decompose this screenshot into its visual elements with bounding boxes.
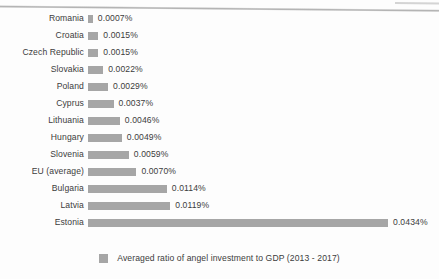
bar-category-label: Croatia [0,31,84,40]
bar-row: Estonia0.0434% [0,214,439,231]
scan-line-artifact-secondary [395,2,439,4]
bar-row: Poland0.0029% [0,78,439,95]
bar-category-label: Cyprus [0,99,84,108]
bar-category-label: Slovenia [0,150,84,159]
bar-category-label: Czech Republic [0,48,84,57]
bar-track: 0.0070% [88,167,439,176]
chart-legend: Averaged ratio of angel investment to GD… [0,254,439,263]
bar-row: Cyprus0.0037% [0,95,439,112]
bar-row: Slovenia0.0059% [0,146,439,163]
bar-track: 0.0015% [88,31,439,40]
bar-category-label: Hungary [0,133,84,142]
bar-category-label: Lithuania [0,116,84,125]
bar-track: 0.0037% [88,99,439,108]
bar-row: Romania0.0007% [0,10,439,27]
bar-row: EU (average)0.0070% [0,163,439,180]
legend-series-label: Averaged ratio of angel investment to GD… [117,254,340,263]
bar-row: Latvia0.0119% [0,197,439,214]
bar-value-label: 0.0015% [103,48,138,57]
bar-value-label: 0.0119% [175,201,209,210]
bar-rect [88,117,120,125]
bar-rect [88,32,98,40]
bar-value-label: 0.0434% [393,218,428,227]
bar-rect [88,66,103,74]
bar-value-label: 0.0029% [113,82,148,91]
bar-track: 0.0046% [88,116,439,125]
bar-rect [88,185,167,193]
bar-track: 0.0049% [88,133,439,142]
bar-value-label: 0.0046% [125,116,160,125]
chart-plot-area: Romania0.0007%Croatia0.0015%Czech Republ… [0,10,439,231]
bar-category-label: EU (average) [0,167,84,176]
bar-rect [88,151,129,159]
bar-track: 0.0007% [88,14,439,23]
bar-rect [88,219,388,227]
bar-value-label: 0.0007% [98,14,133,23]
bar-value-label: 0.0022% [108,65,143,74]
bar-value-label: 0.0049% [127,133,162,142]
bar-chart-figure: Romania0.0007%Croatia0.0015%Czech Republ… [0,0,439,279]
bar-value-label: 0.0059% [134,150,169,159]
bar-track: 0.0434% [88,218,439,227]
bar-rect [88,168,136,176]
bar-rect [88,100,114,108]
bar-category-label: Latvia [0,201,84,210]
bar-row: Bulgaria0.0114% [0,180,439,197]
bar-rect [88,15,93,23]
bar-track: 0.0114% [88,184,439,193]
bar-category-label: Estonia [0,218,84,227]
bar-value-label: 0.0114% [172,184,206,193]
bar-rect [88,202,170,210]
bar-row: Czech Republic0.0015% [0,44,439,61]
bar-track: 0.0059% [88,150,439,159]
legend-color-swatch [99,254,108,263]
bar-track: 0.0015% [88,48,439,57]
bar-row: Croatia0.0015% [0,27,439,44]
bar-row: Lithuania0.0046% [0,112,439,129]
bar-category-label: Bulgaria [0,184,84,193]
bar-value-label: 0.0015% [103,31,138,40]
bar-rect [88,134,122,142]
bar-row: Hungary0.0049% [0,129,439,146]
bar-value-label: 0.0070% [141,167,176,176]
bar-category-label: Slovakia [0,65,84,74]
bar-value-label: 0.0037% [119,99,154,108]
bar-track: 0.0119% [88,201,439,210]
bar-row: Slovakia0.0022% [0,61,439,78]
bar-track: 0.0022% [88,65,439,74]
bar-rect [88,49,98,57]
bar-track: 0.0029% [88,82,439,91]
bar-category-label: Poland [0,82,84,91]
bar-rect [88,83,108,91]
bar-category-label: Romania [0,14,84,23]
